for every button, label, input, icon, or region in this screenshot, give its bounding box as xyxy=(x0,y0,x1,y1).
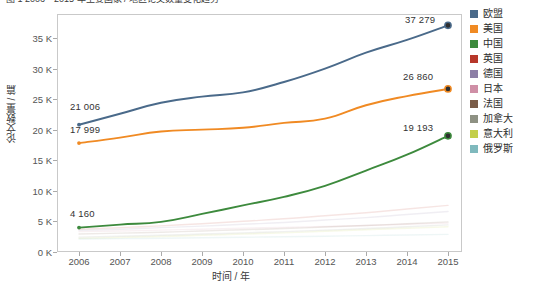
x-axis-tick-label: 2009 xyxy=(191,256,212,267)
x-axis-tick-label: 2008 xyxy=(150,256,171,267)
x-axis-title-text: 时间 / 年 xyxy=(212,271,250,282)
figure-root: 图 1 2006—2015 年主要国家 / 地区论文数量变化趋势 0 K5 K1… xyxy=(0,0,534,285)
x-axis-tick-mark xyxy=(407,252,408,256)
series-point-marker xyxy=(445,22,451,28)
legend-item[interactable]: 法国 xyxy=(470,96,534,111)
legend-item-label: 俄罗斯 xyxy=(483,144,513,154)
legend-swatch-icon xyxy=(470,130,478,138)
y-axis-tick-label: 20 K xyxy=(32,124,52,135)
legend-item[interactable]: 加拿大 xyxy=(470,111,534,126)
y-axis-tick-label: 35 K xyxy=(32,33,52,44)
legend-item[interactable]: 英国 xyxy=(470,51,534,66)
legend-swatch-icon xyxy=(470,55,478,63)
legend-swatch-icon xyxy=(470,145,478,153)
legend-item-label: 日本 xyxy=(483,84,503,94)
y-axis-tick-mark xyxy=(53,252,57,253)
legend-item[interactable]: 德国 xyxy=(470,66,534,81)
legend-item[interactable]: 俄罗斯 xyxy=(470,141,534,156)
legend-swatch-icon xyxy=(470,115,478,123)
x-axis-tick-mark xyxy=(448,252,449,256)
x-axis-tick-label: 2011 xyxy=(274,256,294,267)
series-point-marker xyxy=(445,86,451,92)
x-axis-tick-mark xyxy=(284,252,285,256)
y-axis-tick-label: 30 K xyxy=(32,63,52,74)
x-axis-tick-label: 2012 xyxy=(314,256,335,267)
x-axis-tick-mark xyxy=(243,252,244,256)
x-axis-tick-mark xyxy=(325,252,326,256)
eu-start-value: 21 006 xyxy=(70,101,100,112)
legend-item-label: 意大利 xyxy=(483,129,513,139)
legend-swatch-icon xyxy=(470,10,478,18)
us-start-value: 17 999 xyxy=(70,124,100,135)
x-axis-tick-mark xyxy=(366,252,367,256)
legend-item-label: 欧盟 xyxy=(483,9,503,19)
china-end-value: 19 193 xyxy=(403,122,433,133)
legend-swatch-icon xyxy=(470,100,478,108)
series-line xyxy=(79,136,448,228)
x-axis-title: 时间 / 年 xyxy=(0,268,462,283)
legend-swatch-icon xyxy=(470,25,478,33)
legend-item[interactable]: 中国 xyxy=(470,36,534,51)
series-point-marker xyxy=(445,133,451,139)
legend-item[interactable]: 意大利 xyxy=(470,126,534,141)
legend-item-label: 加拿大 xyxy=(483,114,513,124)
x-axis-tick-label: 2014 xyxy=(396,256,417,267)
x-axis-tick-label: 2015 xyxy=(437,256,458,267)
y-axis-title: 论文数量 / 篇 xyxy=(4,85,18,195)
y-axis-title-text: 论文数量 / 篇 xyxy=(4,85,19,143)
legend-item[interactable]: 欧盟 xyxy=(470,6,534,21)
us-end-value: 26 860 xyxy=(403,71,433,82)
legend-swatch-icon xyxy=(470,70,478,78)
legend-item[interactable]: 美国 xyxy=(470,21,534,36)
x-axis-tick-label: 2006 xyxy=(68,256,89,267)
figure-caption-text: 图 1 2006—2015 年主要国家 / 地区论文数量变化趋势 xyxy=(6,0,356,4)
legend-item-label: 英国 xyxy=(483,54,503,64)
line-chart-svg xyxy=(58,15,461,251)
x-axis-tick-mark xyxy=(79,252,80,256)
legend-swatch-icon xyxy=(470,85,478,93)
series-line xyxy=(79,25,448,124)
legend-item-label: 中国 xyxy=(483,39,503,49)
figure-caption: 图 1 2006—2015 年主要国家 / 地区论文数量变化趋势 xyxy=(6,0,356,6)
x-axis-tick-mark xyxy=(161,252,162,256)
y-axis-tick-label: 25 K xyxy=(32,94,52,105)
legend-item[interactable]: 日本 xyxy=(470,81,534,96)
legend-item-label: 美国 xyxy=(483,24,503,34)
legend-item-label: 法国 xyxy=(483,99,503,109)
legend-swatch-icon xyxy=(470,40,478,48)
china-start-value: 4 160 xyxy=(70,208,95,219)
series-point-marker xyxy=(77,141,81,145)
x-axis-tick-label: 2007 xyxy=(109,256,130,267)
x-axis-tick-mark xyxy=(120,252,121,256)
y-axis-tick-label: 5 K xyxy=(38,216,52,227)
legend-item-label: 德国 xyxy=(483,69,503,79)
eu-end-value: 37 279 xyxy=(405,14,435,25)
legend: 欧盟美国中国英国德国日本法国加拿大意大利俄罗斯 xyxy=(470,6,534,156)
x-axis-tick-mark xyxy=(202,252,203,256)
x-axis-tick-label: 2013 xyxy=(355,256,376,267)
plot-area xyxy=(57,14,462,252)
y-axis-tick-label: 10 K xyxy=(32,185,52,196)
series-line xyxy=(79,205,448,229)
x-axis-tick-label: 2010 xyxy=(232,256,253,267)
series-line xyxy=(79,89,448,143)
series-point-marker xyxy=(77,226,81,230)
y-axis-tick-label: 0 K xyxy=(38,247,52,258)
y-axis-tick-label: 15 K xyxy=(32,155,52,166)
